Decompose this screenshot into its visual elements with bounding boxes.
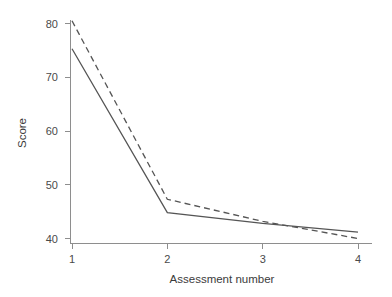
y-tick-marks	[65, 24, 71, 239]
y-tick-label-80: 80	[46, 18, 58, 30]
y-tick-label-50: 50	[46, 179, 58, 191]
x-tick-label-4: 4	[355, 253, 361, 265]
x-tick-label-3: 3	[260, 253, 266, 265]
x-axis-title: Assessment number	[170, 273, 275, 285]
y-tick-label-70: 70	[46, 71, 58, 83]
series-dashed-line	[72, 21, 358, 239]
chart-figure: 80 70 60 50 40 1 2 3 4 Assessment number…	[0, 0, 392, 297]
series-solid-line	[72, 49, 358, 232]
line-chart-canvas: 80 70 60 50 40 1 2 3 4 Assessment number…	[0, 0, 392, 297]
x-tick-label-1: 1	[69, 253, 75, 265]
x-tick-label-2: 2	[164, 253, 170, 265]
x-tick-marks	[72, 244, 358, 250]
y-tick-label-40: 40	[46, 233, 58, 245]
y-tick-label-60: 60	[46, 125, 58, 137]
y-axis-title: Score	[16, 118, 28, 148]
